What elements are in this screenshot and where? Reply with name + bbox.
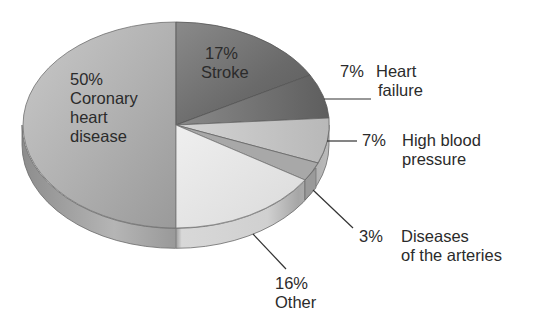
label-other: 16% Other <box>275 274 316 312</box>
label-high-blood-pressure: High blood pressure <box>402 131 481 169</box>
label-coronary-heart-disease: 50% Coronary heart disease <box>70 70 138 146</box>
leader-arteries <box>313 190 353 228</box>
label-stroke: 17% Stroke <box>201 44 249 82</box>
leader-other <box>253 234 286 269</box>
label-arteries-pct: 3% <box>359 227 383 246</box>
label-high-blood-pressure-pct: 7% <box>362 131 386 150</box>
label-heart-failure: Heart failure <box>376 62 423 100</box>
label-arteries: Diseases of the arteries <box>401 227 502 265</box>
label-heart-failure-pct: 7% <box>340 62 364 81</box>
